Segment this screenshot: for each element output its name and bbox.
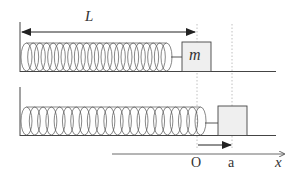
spring-mass-diagram [0, 0, 300, 180]
spring-coil [21, 107, 206, 135]
axis-label: x [275, 155, 282, 170]
origin-label: O [191, 156, 201, 170]
length-label: L [85, 9, 93, 24]
mass-block [218, 106, 247, 136]
displacement-label: a [228, 156, 234, 170]
spring-coil [21, 43, 172, 71]
panel-natural-length [20, 22, 276, 72]
panel-stretched [20, 87, 276, 145]
mass-label: m [189, 47, 201, 63]
